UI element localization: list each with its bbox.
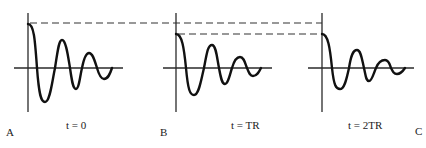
panel-c: t = 2TR C [308, 13, 422, 137]
panel-b-label: B [160, 126, 167, 138]
panel-c-time-label: t = 2TR [348, 119, 383, 131]
fid-diagram: A t = 0 B t = TR t = 2TR C [0, 0, 426, 148]
panel-a-label: A [6, 126, 14, 138]
panel-b-fid-curve [176, 34, 261, 95]
panel-a-time-label: t = 0 [66, 119, 87, 131]
panel-c-fid-curve [322, 34, 405, 89]
panel-a: A t = 0 [6, 13, 123, 138]
panel-b: B t = TR [160, 13, 272, 138]
panel-a-fid-curve [28, 24, 112, 102]
panel-c-label: C [415, 125, 422, 137]
panel-b-time-label: t = TR [231, 119, 260, 131]
